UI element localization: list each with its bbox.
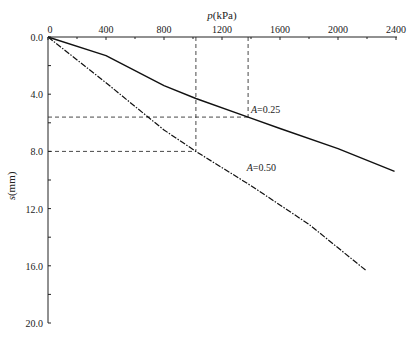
axes: 04008001200160020002400 0.04.08.012.016.… [26, 24, 407, 329]
x-axis-title: p(kPa) [206, 9, 237, 22]
x-tick-label: 800 [157, 24, 172, 35]
y-tick-label: 0.0 [31, 32, 44, 43]
x-tick-label: 2400 [386, 24, 406, 35]
x-axis-unit: (kPa) [213, 9, 237, 22]
x-tick-label: 1200 [212, 24, 232, 35]
y-tick-label: 20.0 [26, 318, 44, 329]
y-tick-label: 8.0 [31, 146, 44, 157]
x-tick-label: 2000 [328, 24, 348, 35]
x-ticks: 04008001200160020002400 [48, 24, 407, 40]
settlement-chart: 04008001200160020002400 0.04.08.012.016.… [0, 0, 414, 339]
y-tick-label: 4.0 [31, 89, 44, 100]
annotations: A=0.25A=0.50 [246, 104, 281, 174]
series-line [48, 37, 366, 270]
y-ticks: 0.04.08.012.016.020.0 [26, 32, 52, 329]
x-tick-label: 0 [48, 24, 53, 35]
x-tick-label: 400 [99, 24, 114, 35]
y-tick-label: 12.0 [26, 204, 44, 215]
series-annotation: A=0.25 [250, 104, 280, 115]
reference-lines [48, 37, 248, 151]
y-axis-title: s(mm) [5, 171, 18, 200]
series-annotation: A=0.50 [246, 162, 276, 173]
y-axis-unit: (mm) [5, 171, 18, 196]
x-tick-label: 1600 [270, 24, 290, 35]
data-series [48, 37, 395, 270]
y-tick-label: 16.0 [26, 261, 44, 272]
